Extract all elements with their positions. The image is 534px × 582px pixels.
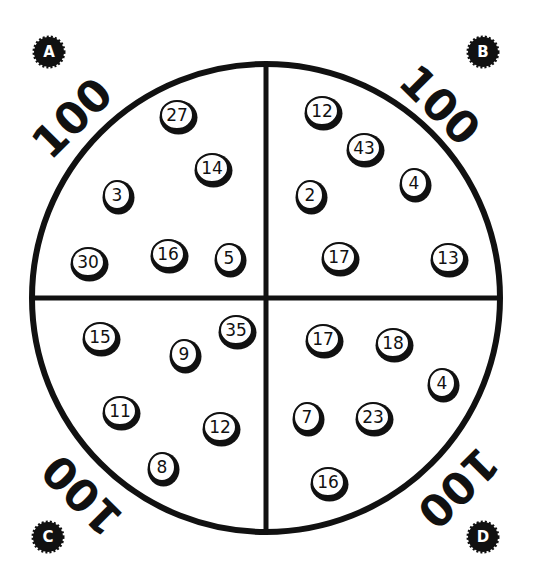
coin: 13 (431, 244, 469, 278)
coin-value: 17 (328, 247, 350, 267)
coin-value: 12 (311, 101, 333, 121)
coin-value: 17 (312, 329, 334, 349)
coin: 12 (305, 97, 343, 131)
coin: 4 (400, 169, 432, 203)
coin: 16 (311, 468, 349, 502)
coin-value: 5 (224, 248, 235, 268)
coin: 23 (356, 403, 394, 437)
coin-value: 8 (157, 457, 168, 477)
coin-value: 4 (409, 173, 420, 193)
coin: 5 (215, 244, 247, 278)
coin: 35 (219, 316, 257, 350)
coin-value: 43 (353, 138, 375, 158)
coin-value: 9 (179, 344, 190, 364)
coin: 7 (293, 403, 325, 437)
svg-text:B: B (477, 43, 488, 61)
coin-value: 14 (201, 158, 223, 178)
coin: 43 (347, 134, 385, 168)
coin: 17 (322, 243, 360, 277)
coin-value: 11 (109, 401, 131, 421)
badge-c: C (33, 522, 63, 552)
svg-text:D: D (477, 528, 489, 546)
coin-value: 35 (225, 320, 247, 340)
coin-value: 3 (112, 185, 123, 205)
coin: 30 (71, 248, 109, 282)
coin-value: 16 (157, 244, 179, 264)
coin: 11 (103, 397, 141, 431)
coin: 15 (83, 323, 121, 357)
coin: 17 (306, 325, 344, 359)
coin-value: 13 (437, 248, 459, 268)
coin-value: 4 (437, 373, 448, 393)
coin: 27 (160, 101, 198, 135)
coin-value: 27 (166, 105, 188, 125)
coin-value: 2 (305, 185, 316, 205)
coin-value: 15 (89, 327, 111, 347)
badge-d: D (468, 522, 498, 552)
badge-a: A (34, 37, 64, 67)
coin-value: 30 (77, 252, 99, 272)
coin-value: 12 (209, 417, 231, 437)
coin: 8 (148, 453, 180, 487)
coin: 3 (103, 181, 135, 215)
coin: 12 (203, 413, 241, 447)
coin: 18 (376, 329, 414, 363)
badge-b: B (468, 37, 498, 67)
coin-value: 16 (317, 472, 339, 492)
coin-value: 23 (362, 407, 384, 427)
coin-quadrant-diagram: A B C D 100 100 100 100 2714330165124342… (0, 0, 534, 582)
coin: 14 (195, 154, 233, 188)
coin: 16 (151, 240, 189, 274)
coin: 9 (170, 340, 202, 374)
coin: 2 (296, 181, 328, 215)
coin: 4 (428, 369, 460, 403)
coin-value: 7 (302, 407, 313, 427)
svg-text:C: C (42, 528, 53, 546)
svg-text:A: A (43, 43, 55, 61)
coin-value: 18 (382, 333, 404, 353)
